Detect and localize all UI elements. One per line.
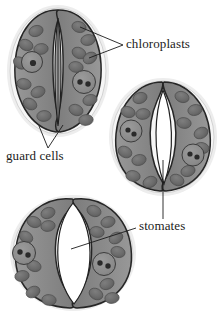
- nucleus-right-partial: [182, 144, 204, 166]
- stoma-closed: [7, 5, 109, 137]
- label-guard-cells: guard cells: [6, 148, 64, 163]
- illustration-canvas: chloroplasts guard cells stomates: [0, 0, 219, 313]
- stoma-open: [10, 195, 136, 311]
- nucleus-left-closed: [22, 52, 43, 73]
- stomate-illustration: chloroplasts guard cells stomates: [0, 0, 219, 313]
- label-chloroplasts: chloroplasts: [126, 36, 190, 51]
- nucleus-right-closed: [73, 71, 96, 94]
- nucleus-right-open: [93, 253, 116, 276]
- nucleus-left-partial: [120, 120, 142, 142]
- nucleus-left-open: [13, 242, 36, 265]
- label-stomates: stomates: [139, 218, 185, 233]
